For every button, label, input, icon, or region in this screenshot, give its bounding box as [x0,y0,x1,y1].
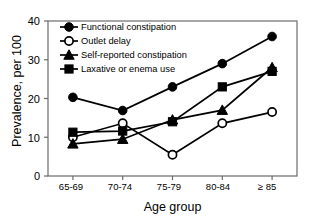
series-2 [68,62,278,148]
data-point-marker [118,106,127,115]
data-point-marker [218,59,227,68]
series-3 [69,67,276,136]
data-point-marker [69,93,78,102]
data-point-marker [218,119,226,127]
chart-figure: Prevalence, per 100 Age group 40 30 20 1… [0,0,317,221]
data-point-marker [65,37,73,45]
legend-swatch-0 [60,23,78,32]
x-axis-title: Age group [48,200,297,214]
x-tick-label-85-plus: ≥ 85 [237,182,297,192]
legend-swatch-2 [60,50,78,59]
data-point-marker [119,127,127,135]
legend-swatch-1 [60,37,78,45]
legend-swatch-3 [60,65,78,73]
legend-label-self-reported-constipation: Self-reported constipation [81,50,187,60]
legend-label-outlet-delay: Outlet delay [81,36,131,46]
data-point-marker [69,128,77,136]
legend-label-functional-constipation: Functional constipation [81,22,176,32]
y-tick-label-20: 20 [14,94,40,105]
data-point-marker [268,67,276,75]
data-point-marker [268,32,277,41]
data-point-marker [168,118,176,126]
data-point-marker [65,65,73,73]
y-tick-label-0: 0 [14,171,40,182]
data-point-marker [168,151,176,159]
y-tick-label-10: 10 [14,133,40,144]
data-point-marker [65,23,74,32]
y-tick-label-40: 40 [14,16,40,27]
data-point-marker [268,108,276,116]
data-point-marker [218,83,226,91]
data-point-marker [168,83,177,92]
legend-label-laxative-or-enema-use: Laxative or enema use [81,64,175,74]
data-point-marker [119,119,127,127]
y-tick-label-30: 30 [14,55,40,66]
